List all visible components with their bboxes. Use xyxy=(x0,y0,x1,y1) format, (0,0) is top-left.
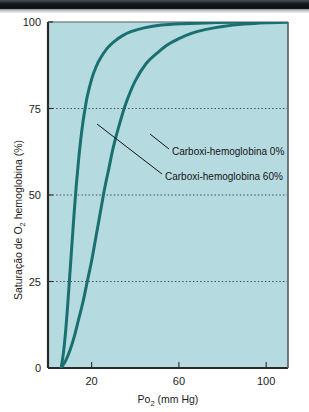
y-tick-labels-group: 0255075100 xyxy=(23,16,41,374)
y-tick-label-0: 0 xyxy=(35,362,41,374)
y-axis-title: Saturação de O2 hemoglobina (%) xyxy=(12,140,27,300)
x-axis-title-main: Po xyxy=(138,393,151,405)
x-tick-label-60: 60 xyxy=(173,375,185,387)
figure-container: MARCAS xyxy=(0,0,309,412)
x-tick-label-20: 20 xyxy=(86,375,98,387)
y-tick-label-50: 50 xyxy=(29,189,41,201)
y-axis-title-part2: hemoglobina (%) xyxy=(12,140,24,222)
y-axis-title-part1: Saturação de O xyxy=(12,226,24,300)
annotation-label-carboxi-60: Carboxi-hemoglobina 60% xyxy=(165,171,283,182)
x-axis-title: Po2 (mm Hg) xyxy=(138,393,199,408)
annotation-label-carboxi-0: Carboxi-hemoglobina 0% xyxy=(172,146,284,157)
x-axis-title-units: (mm Hg) xyxy=(155,393,199,405)
y-tick-label-25: 25 xyxy=(29,276,41,288)
oxygen-dissociation-chart: Carboxi-hemoglobina 0% Carboxi-hemoglobi… xyxy=(0,0,309,412)
y-tick-label-100: 100 xyxy=(23,16,41,28)
y-tick-label-75: 75 xyxy=(29,103,41,115)
x-tick-label-100: 100 xyxy=(257,375,275,387)
x-tick-labels-group: 2060100 xyxy=(86,375,276,387)
